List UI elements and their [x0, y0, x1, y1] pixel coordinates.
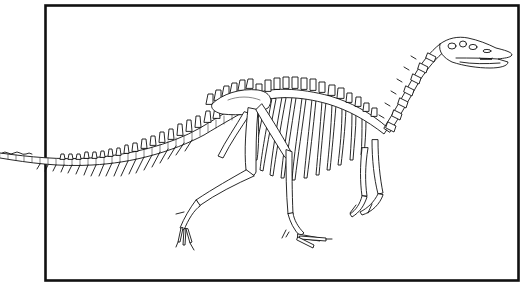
skull [440, 37, 512, 68]
forelimbs [350, 140, 383, 217]
neck [379, 44, 446, 132]
dinosaur-skeleton-illustration [0, 0, 526, 288]
